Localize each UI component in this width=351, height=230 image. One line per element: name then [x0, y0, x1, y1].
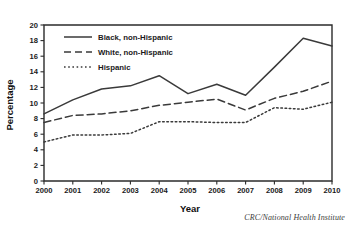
line-chart: 02468101214161820 2000200120022003200420… [0, 0, 351, 230]
x-tick-label: 2002 [93, 186, 110, 195]
y-tick-label: 0 [34, 177, 38, 186]
y-tick-label: 16 [30, 52, 38, 61]
plot-frame [44, 25, 332, 181]
y-tick-label: 2 [34, 161, 38, 170]
series-line [44, 102, 332, 142]
y-axis-ticks: 02468101214161820 [30, 21, 44, 186]
plot-border [44, 25, 332, 181]
legend-label: Black, non-Hispanic [98, 33, 173, 42]
x-axis-title: Year [180, 203, 200, 214]
credit-text: CRC/National Health Institute [244, 213, 345, 222]
chart-legend: Black, non-HispanicWhite, non-HispanicHi… [64, 33, 174, 72]
x-tick-label: 2003 [122, 186, 139, 195]
y-tick-label: 20 [30, 21, 38, 30]
y-tick-label: 8 [34, 114, 38, 123]
legend-label: Hispanic [98, 63, 131, 72]
x-tick-label: 2004 [151, 186, 169, 195]
y-tick-label: 10 [30, 99, 38, 108]
x-axis-ticks: 2000200120022003200420052006200720082009… [36, 181, 341, 195]
series-lines [44, 38, 332, 142]
x-tick-label: 2001 [64, 186, 82, 195]
chart-figure: 02468101214161820 2000200120022003200420… [0, 0, 351, 230]
y-tick-label: 4 [34, 145, 39, 154]
y-tick-label: 12 [30, 83, 38, 92]
y-axis-title: Percentage [4, 79, 15, 130]
y-tick-label: 14 [30, 67, 39, 76]
x-tick-label: 2009 [295, 186, 312, 195]
x-tick-label: 2007 [237, 186, 254, 195]
x-tick-label: 2010 [324, 186, 341, 195]
series-line [44, 81, 332, 122]
y-tick-label: 18 [30, 36, 38, 45]
x-tick-label: 2000 [36, 186, 53, 195]
x-tick-label: 2005 [180, 186, 198, 195]
x-tick-label: 2008 [266, 186, 283, 195]
x-tick-label: 2006 [208, 186, 225, 195]
legend-label: White, non-Hispanic [98, 48, 174, 57]
y-tick-label: 6 [34, 130, 38, 139]
